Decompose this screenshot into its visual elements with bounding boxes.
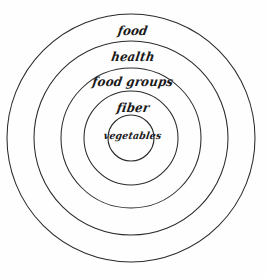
ring-label-vegetables-text: vegetables bbox=[103, 130, 162, 141]
ring-label-food-groups-text: food groups bbox=[91, 74, 174, 89]
concentric-ring-diagram: food health food groups fiber vegetables bbox=[0, 0, 266, 278]
ring-label-vegetables: vegetables bbox=[0, 130, 266, 141]
ring-label-food-text: food bbox=[117, 23, 149, 38]
ring-label-fiber-text: fiber bbox=[116, 100, 151, 115]
ring-label-health: health bbox=[0, 49, 266, 64]
ring-label-food: food bbox=[0, 23, 266, 38]
ring-label-health-text: health bbox=[110, 49, 156, 64]
ring-label-food-groups: food groups bbox=[0, 74, 266, 89]
ring-label-fiber: fiber bbox=[0, 100, 266, 115]
